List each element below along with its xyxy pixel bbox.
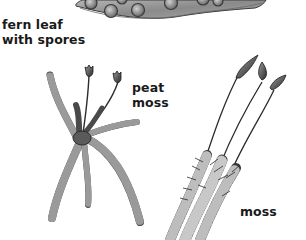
moss-label: moss — [240, 204, 277, 219]
fern-leaf-icon — [76, 0, 266, 18]
peat-moss-label: peat moss — [132, 80, 169, 110]
moss-label-line1: moss — [240, 204, 277, 219]
fern-leaf-label: fern leaf with spores — [2, 17, 85, 47]
fern-leaf-label-line1: fern leaf — [2, 17, 85, 32]
peat-moss-icon — [50, 65, 140, 222]
peat-moss-label-line1: peat — [132, 80, 169, 95]
peat-moss-label-line2: moss — [132, 95, 169, 110]
fern-leaf-label-line2: with spores — [2, 32, 85, 47]
